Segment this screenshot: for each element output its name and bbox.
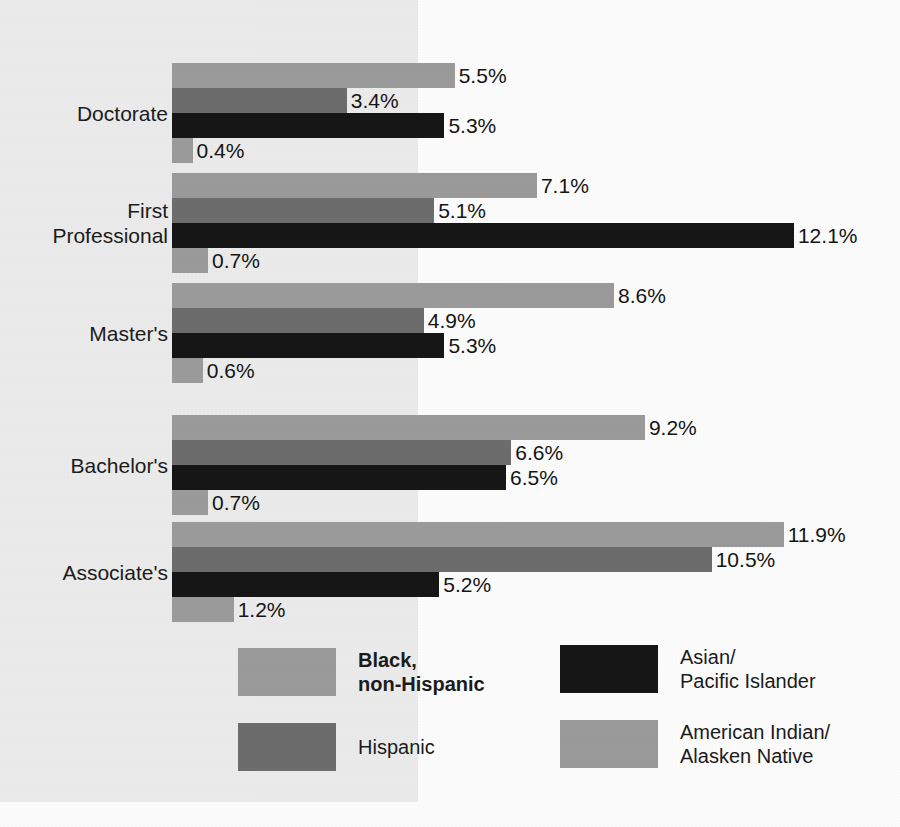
legend-label: Black, non-Hispanic xyxy=(358,648,485,696)
legend-label: Asian/ Pacific Islander xyxy=(680,645,816,693)
bar-value-label: 6.5% xyxy=(510,465,558,490)
bar-value-label: 3.4% xyxy=(351,88,399,113)
legend-item: Asian/ Pacific Islander xyxy=(560,645,816,693)
legend-label: Hispanic xyxy=(358,735,435,759)
bar xyxy=(172,597,234,622)
bar-row: 5.1% xyxy=(172,198,486,223)
bar xyxy=(172,173,537,198)
bar xyxy=(172,333,444,358)
bar xyxy=(172,88,347,113)
legend-swatch xyxy=(560,720,658,768)
bar-row: 10.5% xyxy=(172,547,775,572)
bar-row: 5.3% xyxy=(172,333,496,358)
bar xyxy=(172,308,424,333)
bar-group: Associate's11.9%10.5%5.2%1.2% xyxy=(0,522,900,622)
bar-value-label: 5.5% xyxy=(459,63,507,88)
bar-row: 7.1% xyxy=(172,173,589,198)
bar xyxy=(172,547,712,572)
bar-row: 5.5% xyxy=(172,63,507,88)
legend-item: Black, non-Hispanic xyxy=(238,648,485,696)
legend-item: Hispanic xyxy=(238,723,435,771)
bar-row: 6.5% xyxy=(172,465,558,490)
bar-value-label: 8.6% xyxy=(618,283,666,308)
bar xyxy=(172,358,203,383)
bar-value-label: 7.1% xyxy=(541,173,589,198)
bar xyxy=(172,138,193,163)
bar-group: Master's8.6%4.9%5.3%0.6% xyxy=(0,283,900,383)
bar-row: 1.2% xyxy=(172,597,286,622)
bar-row: 8.6% xyxy=(172,283,666,308)
bar-row: 4.9% xyxy=(172,308,476,333)
bar-row: 5.2% xyxy=(172,572,491,597)
bar-group: Bachelor's9.2%6.6%6.5%0.7% xyxy=(0,415,900,515)
bar xyxy=(172,248,208,273)
category-label: Doctorate xyxy=(0,101,168,126)
bar-row: 6.6% xyxy=(172,440,563,465)
bar xyxy=(172,490,208,515)
bar-value-label: 1.2% xyxy=(238,597,286,622)
bar-group: Doctorate5.5%3.4%5.3%0.4% xyxy=(0,63,900,163)
legend-swatch xyxy=(238,648,336,696)
chart-root: Doctorate5.5%3.4%5.3%0.4%First Professio… xyxy=(0,0,900,827)
bar-row: 9.2% xyxy=(172,415,697,440)
bar-row: 0.6% xyxy=(172,358,255,383)
bar xyxy=(172,415,645,440)
bar-value-label: 6.6% xyxy=(515,440,563,465)
bar-value-label: 5.1% xyxy=(438,198,486,223)
bar-value-label: 0.6% xyxy=(207,358,255,383)
bar-value-label: 9.2% xyxy=(649,415,697,440)
bar-value-label: 12.1% xyxy=(798,223,858,248)
bar-row: 3.4% xyxy=(172,88,399,113)
bar xyxy=(172,198,434,223)
bar-value-label: 5.2% xyxy=(443,572,491,597)
bar-row: 12.1% xyxy=(172,223,857,248)
bar xyxy=(172,440,511,465)
bar xyxy=(172,223,794,248)
category-label: First Professional xyxy=(0,198,168,248)
bar xyxy=(172,283,614,308)
legend-item: American Indian/ Alasken Native xyxy=(560,720,830,768)
bar xyxy=(172,465,506,490)
category-label: Bachelor's xyxy=(0,453,168,478)
bar-row: 0.7% xyxy=(172,490,260,515)
bar-chart-plot-area: Doctorate5.5%3.4%5.3%0.4%First Professio… xyxy=(0,0,900,640)
chart-legend: Black, non-HispanicHispanicAsian/ Pacifi… xyxy=(0,640,900,820)
bar-row: 5.3% xyxy=(172,113,496,138)
bar-value-label: 11.9% xyxy=(788,522,846,547)
bar-row: 0.4% xyxy=(172,138,244,163)
legend-label: American Indian/ Alasken Native xyxy=(680,720,830,768)
bar-value-label: 5.3% xyxy=(448,333,496,358)
bar-value-label: 0.7% xyxy=(212,248,260,273)
bar xyxy=(172,572,439,597)
bar-value-label: 0.7% xyxy=(212,490,260,515)
bar-value-label: 10.5% xyxy=(716,547,776,572)
bar-value-label: 4.9% xyxy=(428,308,476,333)
bar-value-label: 5.3% xyxy=(448,113,496,138)
category-label: Associate's xyxy=(0,560,168,585)
legend-swatch xyxy=(238,723,336,771)
bar xyxy=(172,113,444,138)
bar-group: First Professional7.1%5.1%12.1%0.7% xyxy=(0,173,900,273)
category-label: Master's xyxy=(0,321,168,346)
legend-swatch xyxy=(560,645,658,693)
bar xyxy=(172,63,455,88)
bar xyxy=(172,522,784,547)
bar-value-label: 0.4% xyxy=(197,138,245,163)
bar-row: 0.7% xyxy=(172,248,260,273)
bar-row: 11.9% xyxy=(172,522,846,547)
